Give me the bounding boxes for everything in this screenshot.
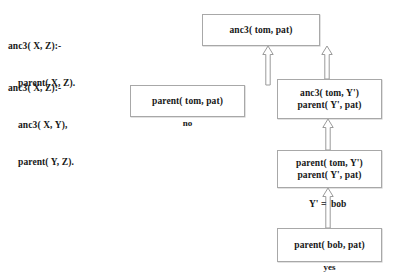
clause-2-body-2: parent( Y, Z). [8,156,74,168]
result-label-yes: yes [277,262,382,272]
goal-node-right-branch: anc3( tom, Y') parent( Y', pat) [277,79,382,119]
goal-node-right-branch-line-2: parent( Y', pat) [297,99,361,111]
goal-node-middle-line-1: parent( tom, Y') [296,157,363,169]
clause-1-head: anc3( X, Z):- [8,40,75,52]
clause-2-body-1: anc3( X, Y), [8,119,74,131]
goal-node-middle-line-2: parent( Y', pat) [297,169,361,181]
arrow-left-branch-to-root [261,45,275,86]
goal-node-left-branch-label: parent( tom, pat) [152,95,223,107]
goal-node-bottom: parent( bob, pat) [277,228,382,262]
variable-binding-label: Y' = bob [309,199,346,209]
execution-tree-diagram: anc3( X, Z):- parent( X, Z). anc3( X, Z)… [0,0,394,275]
arrow-middle-to-right-branch [321,118,335,151]
goal-node-root: anc3( tom, pat) [202,14,320,46]
clause-2-head: anc3( X, Z):- [8,82,74,94]
result-label-no: no [130,118,245,128]
goal-node-bottom-label: parent( bob, pat) [294,239,364,251]
goal-node-right-branch-line-1: anc3( tom, Y') [300,87,359,99]
goal-node-left-branch: parent( tom, pat) [130,85,245,117]
goal-node-root-label: anc3( tom, pat) [230,24,293,36]
goal-node-middle: parent( tom, Y') parent( Y', pat) [277,150,382,188]
program-clause-2: anc3( X, Z):- anc3( X, Y), parent( Y, Z)… [8,58,74,192]
arrow-right-branch-to-root [320,45,334,80]
